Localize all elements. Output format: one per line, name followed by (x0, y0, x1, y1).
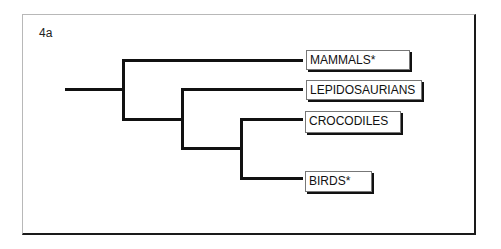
taxon-lepidosaurians: LEPIDOSAURIANS (306, 80, 422, 100)
node-2-vertical (181, 88, 184, 150)
branch-crocodiles (240, 118, 303, 121)
root-branch (65, 88, 125, 91)
branch-mammals (122, 59, 303, 62)
node-1-vertical (122, 59, 125, 121)
node-2-lower-branch (181, 147, 243, 150)
branch-lepidosaurians (181, 88, 303, 91)
figure-label: 4a (39, 26, 52, 40)
node-1-lower-branch (122, 118, 184, 121)
taxon-crocodiles: CROCODILES (305, 111, 401, 133)
branch-birds (240, 177, 303, 180)
figure-frame (22, 14, 476, 235)
node-3-vertical (240, 118, 243, 180)
taxon-mammals: MAMMALS* (306, 50, 410, 70)
taxon-birds: BIRDS* (305, 171, 372, 192)
